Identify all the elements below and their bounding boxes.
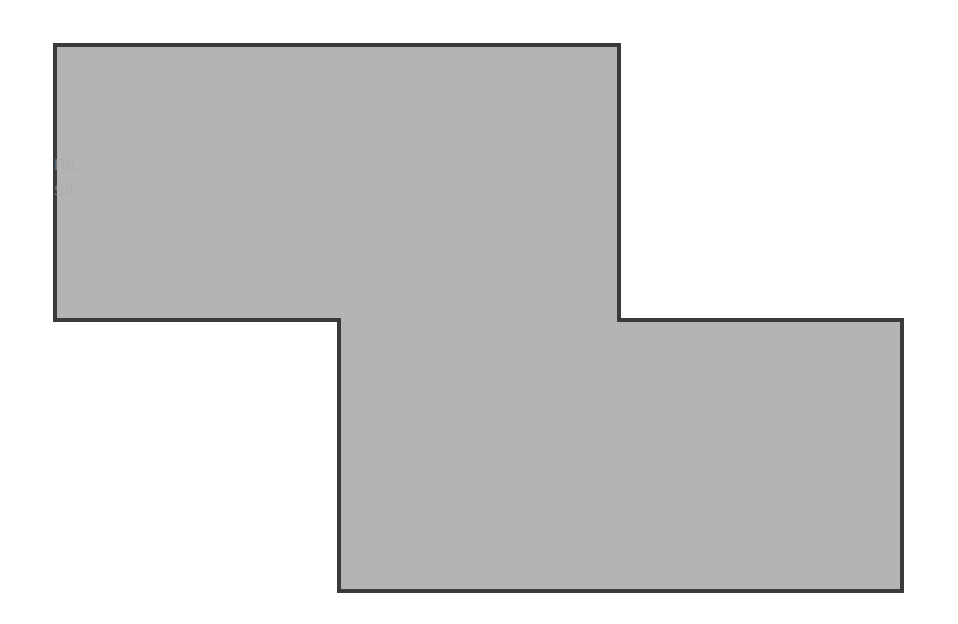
z-shaped-polygon	[55, 45, 902, 591]
diagram-canvas	[0, 0, 958, 624]
